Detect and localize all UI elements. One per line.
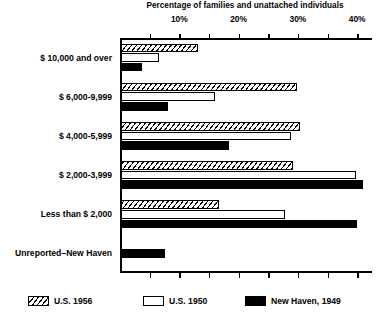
x-axis-title: Percentage of families and unattached in…	[120, 1, 370, 10]
category-label: Less than $ 2,000	[0, 209, 112, 219]
x-axis-tick	[268, 34, 269, 40]
bar	[121, 83, 297, 92]
legend-item[interactable]: New Haven, 1949	[245, 296, 341, 306]
bar	[121, 102, 168, 111]
x-axis-tick	[150, 272, 151, 278]
x-axis-tick	[209, 34, 210, 40]
bar	[121, 180, 363, 189]
open-swatch	[143, 296, 164, 306]
x-axis-tick-label: 20%	[230, 14, 247, 24]
bar	[121, 122, 300, 131]
axis-line-bottom	[120, 271, 372, 273]
legend-item[interactable]: U.S. 1950	[143, 296, 207, 306]
bar	[121, 249, 165, 258]
x-axis-tick	[268, 272, 269, 278]
bar	[121, 63, 142, 72]
x-axis-tick	[328, 272, 329, 278]
legend-item[interactable]: U.S. 1956	[28, 296, 92, 306]
bar	[121, 92, 215, 101]
x-axis-tick	[150, 34, 151, 40]
solid-swatch	[245, 296, 266, 306]
chart-legend: U.S. 1956U.S. 1950New Haven, 1949	[0, 296, 381, 316]
axis-line-left	[120, 38, 122, 273]
legend-label: New Haven, 1949	[271, 296, 341, 306]
x-axis-tick	[328, 34, 329, 40]
x-axis-tick	[298, 272, 299, 278]
bar-chart: Percentage of families and unattached in…	[0, 0, 381, 325]
bar	[121, 200, 219, 209]
legend-label: U.S. 1950	[169, 296, 207, 306]
x-axis-tick	[357, 272, 358, 278]
x-axis-tick-label: 10%	[171, 14, 188, 24]
bar	[121, 141, 229, 150]
x-axis-tick	[179, 272, 180, 278]
legend-label: U.S. 1956	[54, 296, 92, 306]
bar	[121, 161, 293, 170]
plot-area	[120, 38, 372, 273]
x-axis-tick	[209, 272, 210, 278]
hatched-swatch	[28, 296, 49, 306]
axis-line-top	[120, 38, 372, 40]
x-axis-tick	[239, 272, 240, 278]
category-label: $ 4,000-5,999	[0, 131, 112, 141]
x-axis-tick	[298, 34, 299, 40]
x-axis-tick	[239, 34, 240, 40]
x-axis-tick-label: 40%	[349, 14, 366, 24]
category-label: Unreported–New Haven	[0, 248, 112, 258]
x-axis-tick	[179, 34, 180, 40]
category-label: $ 10,000 and over	[0, 53, 112, 63]
category-label: $ 2,000-3,999	[0, 170, 112, 180]
bar	[121, 132, 291, 141]
x-axis-tick	[357, 34, 358, 40]
bar	[121, 44, 198, 53]
bar	[121, 210, 285, 219]
x-axis-tick-label: 30%	[289, 14, 306, 24]
bar	[121, 53, 159, 62]
category-label: $ 6,000-9,999	[0, 92, 112, 102]
bar	[121, 220, 357, 229]
bar	[121, 171, 356, 180]
